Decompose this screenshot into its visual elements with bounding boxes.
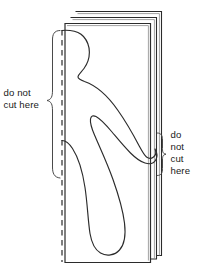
diagram-canvas: do not cut here do not cut here — [0, 0, 202, 274]
left-label-line-2: cut here — [4, 99, 39, 110]
do-not-cut-here-right-label: do not cut here — [171, 129, 191, 176]
left-brace-path — [47, 31, 60, 179]
do-not-cut-here-left-label: do not cut here — [4, 87, 39, 110]
right-label-line-1: do — [171, 129, 182, 140]
left-brace — [47, 31, 60, 179]
right-label-line-3: cut — [171, 153, 184, 164]
paper-doll-diagram: do not cut here do not cut here — [0, 0, 202, 274]
right-label-line-4: here — [171, 165, 191, 176]
left-label-line-1: do not — [4, 87, 32, 98]
right-label-line-2: not — [171, 141, 185, 152]
